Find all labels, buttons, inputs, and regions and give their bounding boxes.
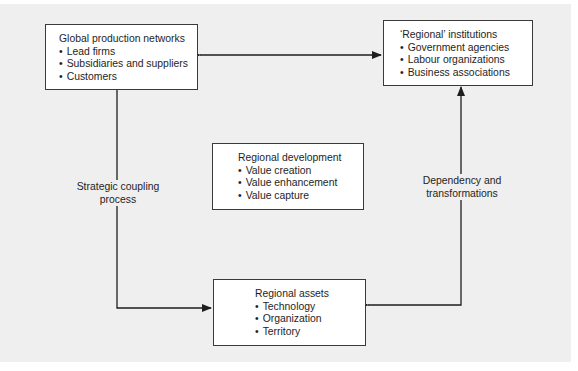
- node-item: Organization: [255, 313, 365, 326]
- edge-label-line: Dependency and: [418, 174, 506, 187]
- node-items: Government agencies Labour organizations…: [400, 42, 532, 80]
- node-item: Value enhancement: [238, 177, 363, 190]
- node-item: Technology: [255, 301, 365, 314]
- node-items: Value creation Value enhancement Value c…: [238, 165, 363, 203]
- node-title: ‘Regional’ institutions: [400, 29, 532, 42]
- edge-label-line: Strategic coupling: [66, 180, 170, 193]
- node-item: Subsidiaries and suppliers: [59, 58, 197, 71]
- node-item: Lead firms: [59, 46, 197, 59]
- node-title: Regional assets: [255, 288, 365, 301]
- node-items: Technology Organization Territory: [255, 301, 365, 339]
- node-regional-assets: Regional assets Technology Organization …: [213, 279, 366, 346]
- node-title: Regional development: [238, 152, 363, 165]
- node-item: Value capture: [238, 190, 363, 203]
- node-item: Territory: [255, 326, 365, 339]
- edge-label-strategic-coupling: Strategic coupling process: [66, 180, 170, 206]
- node-items: Lead firms Subsidiaries and suppliers Cu…: [59, 46, 197, 84]
- edge-label-dependency: Dependency and transformations: [418, 174, 506, 200]
- node-item: Customers: [59, 71, 197, 84]
- node-regional-institutions: ‘Regional’ institutions Government agenc…: [383, 20, 533, 86]
- node-item: Business associations: [400, 67, 532, 80]
- node-item: Government agencies: [400, 42, 532, 55]
- node-item: Value creation: [238, 165, 363, 178]
- edge-label-line: process: [66, 193, 170, 206]
- node-title: Global production networks: [59, 33, 197, 46]
- node-regional-development: Regional development Value creation Valu…: [212, 143, 364, 210]
- node-global-production-networks: Global production networks Lead firms Su…: [45, 24, 198, 90]
- node-item: Labour organizations: [400, 54, 532, 67]
- edge-label-line: transformations: [418, 187, 506, 200]
